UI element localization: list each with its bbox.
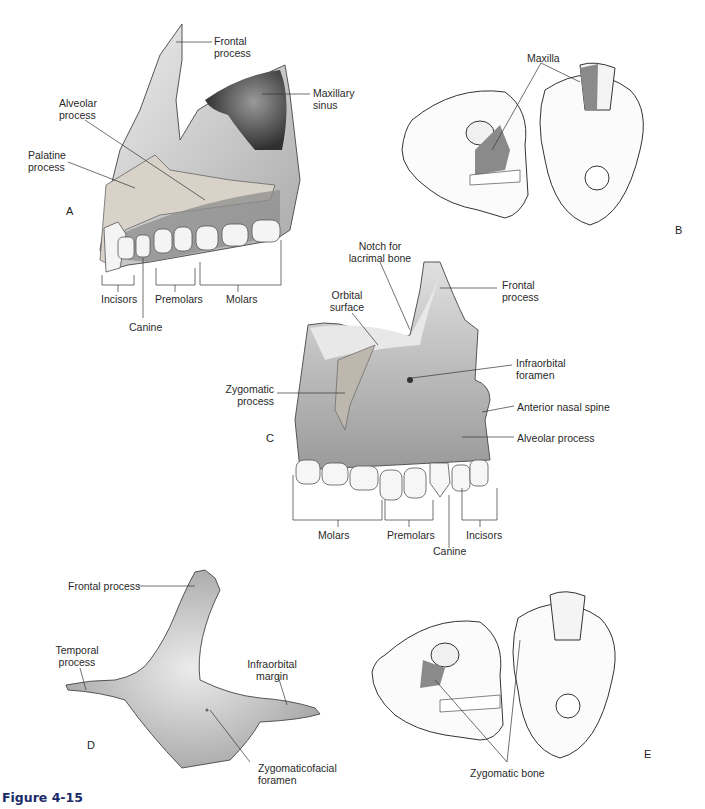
label-line: Infraorbital xyxy=(516,357,566,369)
label-a-incisors: Incisors xyxy=(101,293,137,305)
label-line: foramen xyxy=(258,774,337,786)
label-a-palatine-process: Palatine process xyxy=(28,149,66,173)
panel-b-skulls-maxilla xyxy=(402,63,643,225)
label-a-molars: Molars xyxy=(226,293,258,305)
label-line: Infraorbital xyxy=(244,658,300,670)
label-line: sinus xyxy=(313,99,354,111)
label-c-anterior-nasal-spine: Anterior nasal spine xyxy=(517,401,610,413)
panel-e-skulls-zygomatic xyxy=(372,592,615,762)
panel-letter-a: A xyxy=(66,205,73,217)
label-c-frontal-process: Frontal process xyxy=(502,279,539,303)
label-a-maxillary-sinus: Maxillary sinus xyxy=(313,87,354,111)
label-line: process xyxy=(210,395,274,407)
label-c-alveolar-process: Alveolar process xyxy=(517,432,595,444)
label-line: Zygomatic xyxy=(210,383,274,395)
panel-letter-c: C xyxy=(266,432,274,444)
label-c-incisors: Incisors xyxy=(466,529,502,541)
label-c-infraorbital-foramen: Infraorbital foramen xyxy=(516,357,566,381)
label-c-orbital-surface: Orbital surface xyxy=(322,289,372,313)
label-line: Maxillary xyxy=(313,87,354,99)
label-a-canine: Canine xyxy=(129,321,162,333)
label-line: process xyxy=(59,109,97,121)
label-line: process xyxy=(52,656,102,668)
label-e-zygomatic-bone: Zygomatic bone xyxy=(470,767,545,779)
label-a-alveolar-process: Alveolar process xyxy=(59,97,97,121)
panel-c-maxilla-lateral xyxy=(277,262,514,548)
label-c-molars: Molars xyxy=(318,529,350,541)
label-c-premolars: Premolars xyxy=(387,529,435,541)
label-c-notch-lacrimal-bone: Notch for lacrimal bone xyxy=(340,240,420,264)
panel-a-maxilla-medial xyxy=(68,24,310,318)
label-line: surface xyxy=(322,301,372,313)
label-line: Notch for xyxy=(340,240,420,252)
label-line: process xyxy=(502,291,539,303)
label-a-premolars: Premolars xyxy=(155,293,203,305)
panel-letter-d: D xyxy=(87,739,95,751)
panel-letter-b: B xyxy=(675,224,682,236)
label-line: process xyxy=(214,47,251,59)
label-line: lacrimal bone xyxy=(340,252,420,264)
label-line: process xyxy=(28,161,66,173)
label-b-maxilla: Maxilla xyxy=(527,52,560,64)
label-d-frontal-process: Frontal process xyxy=(68,580,140,592)
figure-caption: Figure 4-15 xyxy=(2,790,83,805)
label-line: foramen xyxy=(516,369,566,381)
label-line: margin xyxy=(244,670,300,682)
label-c-zygomatic-process: Zygomatic process xyxy=(210,383,274,407)
label-a-frontal-process: Frontal process xyxy=(214,35,251,59)
label-line: Orbital xyxy=(322,289,372,301)
panel-letter-e: E xyxy=(644,748,651,760)
label-line: Palatine xyxy=(28,149,66,161)
label-line: Temporal xyxy=(52,644,102,656)
label-line: Zygomaticofacial xyxy=(258,762,337,774)
label-c-canine: Canine xyxy=(433,545,466,557)
label-line: Frontal xyxy=(502,279,539,291)
label-d-infraorbital-margin: Infraorbital margin xyxy=(244,658,300,682)
label-d-temporal-process: Temporal process xyxy=(52,644,102,668)
label-line: Frontal xyxy=(214,35,251,47)
label-d-zygomaticofacial-foramen: Zygomaticofacial foramen xyxy=(258,762,337,786)
label-line: Alveolar xyxy=(59,97,97,109)
